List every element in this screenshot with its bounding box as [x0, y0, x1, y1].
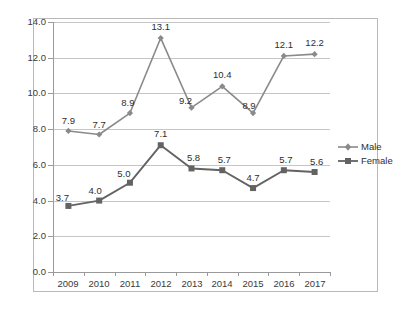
line-chart: 14.012.010.08.06.04.02.00.0 200920102011… [0, 0, 406, 314]
data-point-marker [189, 165, 195, 171]
data-point-label: 9.2 [164, 95, 208, 106]
data-point-label: 7.1 [139, 128, 183, 139]
data-point-marker [281, 167, 287, 173]
data-point-marker [281, 53, 287, 59]
data-point-label: 4.7 [231, 172, 275, 183]
data-point-label: 5.0 [102, 168, 146, 179]
data-point-label: 7.7 [77, 119, 121, 130]
data-point-label: 4.0 [73, 185, 117, 196]
legend-label-male: Male [361, 141, 382, 153]
data-point-marker [96, 198, 102, 204]
data-point-label: 5.6 [295, 156, 339, 167]
legend-item-female[interactable]: Female [337, 154, 393, 168]
data-point-label: 13.1 [139, 21, 183, 32]
data-point-marker [312, 169, 318, 175]
legend-marker-female-icon [337, 155, 359, 167]
data-point-label: 5.7 [202, 154, 246, 165]
data-point-label: 8.9 [227, 100, 271, 111]
data-point-marker [250, 185, 256, 191]
data-point-marker [158, 35, 164, 41]
chart-legend: Male Female [337, 140, 393, 168]
data-point-marker [219, 167, 225, 173]
legend-marker-male-icon [337, 141, 359, 153]
data-point-label: 8.9 [106, 97, 150, 108]
data-point-marker [65, 128, 71, 134]
legend-label-female: Female [361, 155, 393, 167]
data-point-marker [65, 203, 71, 209]
data-point-marker [158, 142, 164, 148]
data-point-label: 12.2 [293, 37, 337, 48]
data-point-marker [312, 51, 318, 57]
legend-item-male[interactable]: Male [337, 140, 393, 154]
data-point-marker [127, 180, 133, 186]
data-point-label: 10.4 [200, 69, 244, 80]
